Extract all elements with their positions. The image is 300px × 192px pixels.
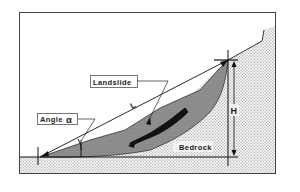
height-label: H: [231, 106, 238, 116]
bedrock-label: Bedrock: [179, 143, 212, 152]
angle-symbol: α: [66, 114, 72, 125]
angle-label: Angle: [40, 115, 63, 124]
landslide-diagram: H L Landslide Angle α Bedrock: [0, 0, 300, 192]
landslide-label: Landslide: [93, 78, 132, 87]
